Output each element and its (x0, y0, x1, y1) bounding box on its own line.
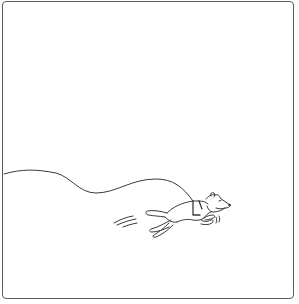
illustration (3, 2, 294, 299)
breath-lines (216, 216, 220, 223)
dog-harness (193, 201, 202, 215)
speed-lines (114, 216, 137, 227)
leash-line (4, 170, 193, 201)
running-dog (146, 193, 230, 238)
comic-panel (2, 1, 294, 299)
